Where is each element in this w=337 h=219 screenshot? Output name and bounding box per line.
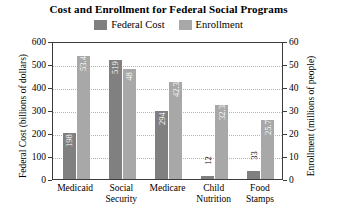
y-axis-ticklabel-right: 60 bbox=[289, 37, 317, 47]
y-axis-tick-right bbox=[283, 65, 287, 66]
chart-title: Cost and Enrollment for Federal Social P… bbox=[0, 3, 337, 16]
x-axis-category-label: ChildNutrition bbox=[191, 183, 237, 205]
y-axis-ticklabel-right: 0 bbox=[289, 175, 317, 185]
y-axis-ticklabel-right: 20 bbox=[289, 129, 317, 139]
category-label-line: Social bbox=[98, 183, 144, 194]
legend-entry-federal-cost: Federal Cost bbox=[94, 19, 164, 31]
y-axis-ticklabel-left: 400 bbox=[18, 83, 46, 93]
bar-enrollment: 48 bbox=[123, 69, 136, 179]
y-axis-ticklabel-right: 50 bbox=[289, 60, 317, 70]
legend-label-federal-cost: Federal Cost bbox=[111, 19, 164, 31]
y-axis-tick-right bbox=[283, 88, 287, 89]
y-axis-tick-right bbox=[283, 111, 287, 112]
y-axis-ticklabel-left: 300 bbox=[18, 106, 46, 116]
y-axis-tick-right bbox=[283, 180, 287, 181]
category-label-line: Child bbox=[191, 183, 237, 194]
plot-area: 19853.45194829442.31232.33325.7 bbox=[52, 42, 283, 180]
bar-federal-cost: 198 bbox=[63, 133, 76, 179]
x-axis-category-label: SocialSecurity bbox=[98, 183, 144, 205]
bar-value-label: 25.7 bbox=[263, 120, 272, 135]
y-axis-tick-right bbox=[283, 42, 287, 43]
category-label-line: Stamps bbox=[237, 194, 283, 205]
y-axis-ticklabel-left: 600 bbox=[18, 37, 46, 47]
y-axis-ticklabel-left: 500 bbox=[18, 60, 46, 70]
y-axis-tick-left bbox=[48, 180, 52, 181]
category-label-line: Food bbox=[237, 183, 283, 194]
chart-legend: Federal Cost Enrollment bbox=[0, 19, 337, 31]
category-label-line: Medicaid bbox=[52, 183, 98, 194]
x-axis-category-label: Medicare bbox=[144, 183, 190, 194]
bar-value-label: 294 bbox=[157, 113, 166, 126]
bar-value-label: 519 bbox=[111, 61, 120, 74]
bar-federal-cost: 12 bbox=[201, 176, 214, 179]
y-axis-ticklabel-right: 10 bbox=[289, 152, 317, 162]
y-axis-ticklabel-right: 40 bbox=[289, 83, 317, 93]
chart-container: Cost and Enrollment for Federal Social P… bbox=[0, 0, 337, 219]
legend-label-enrollment: Enrollment bbox=[196, 19, 243, 31]
legend-swatch-federal-cost bbox=[94, 20, 107, 30]
bar-value-label: 48 bbox=[125, 72, 134, 81]
y-axis-tick-right bbox=[283, 134, 287, 135]
bar-federal-cost: 33 bbox=[247, 171, 260, 179]
bar-value-label: 198 bbox=[65, 135, 74, 148]
x-axis-category-label: Medicaid bbox=[52, 183, 98, 194]
legend-swatch-enrollment bbox=[179, 20, 192, 30]
bar-enrollment: 42.3 bbox=[169, 82, 182, 179]
bar-federal-cost: 519 bbox=[109, 60, 122, 179]
bar-value-label: 53.4 bbox=[79, 56, 88, 71]
bar-value-label: 33 bbox=[249, 152, 258, 161]
category-label-line: Nutrition bbox=[191, 194, 237, 205]
bar-value-label: 12 bbox=[203, 157, 212, 166]
y-axis-tick-right bbox=[283, 157, 287, 158]
category-label-line: Security bbox=[98, 194, 144, 205]
category-label-line: Medicare bbox=[144, 183, 190, 194]
legend-entry-enrollment: Enrollment bbox=[179, 19, 243, 31]
bar-enrollment: 25.7 bbox=[261, 120, 274, 179]
y-axis-ticklabel-left: 100 bbox=[18, 152, 46, 162]
bar-value-label: 42.3 bbox=[171, 82, 180, 97]
x-axis-category-label: FoodStamps bbox=[237, 183, 283, 205]
y-axis-ticklabel-left: 0 bbox=[18, 175, 46, 185]
bar-value-label: 32.3 bbox=[217, 105, 226, 120]
bar-federal-cost: 294 bbox=[155, 111, 168, 179]
y-axis-ticklabel-left: 200 bbox=[18, 129, 46, 139]
bar-enrollment: 53.4 bbox=[77, 56, 90, 179]
y-axis-ticklabel-right: 30 bbox=[289, 106, 317, 116]
bar-enrollment: 32.3 bbox=[215, 105, 228, 179]
